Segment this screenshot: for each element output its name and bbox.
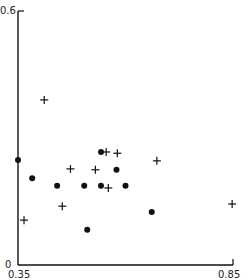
plus-marker (40, 96, 48, 104)
plus-marker (113, 149, 121, 157)
scatter-chart: 0.6 0 0.35 0.85 (0, 0, 250, 280)
plus-marker (104, 184, 112, 192)
x-tick-label-left: 0.35 (8, 269, 30, 280)
dot-marker (81, 183, 87, 189)
plus-marker (228, 200, 236, 208)
x-tick-label-right: 0.85 (218, 269, 240, 280)
plus-marker (58, 202, 66, 210)
plus-marker (153, 157, 161, 165)
plus-marker (20, 216, 28, 224)
plus-marker (91, 166, 99, 174)
dot-marker (113, 167, 119, 173)
data-points (15, 96, 236, 233)
y-tick-label-top: 0.6 (0, 5, 16, 16)
dot-marker (149, 209, 155, 215)
axes (18, 11, 233, 265)
plus-marker (102, 148, 110, 156)
dot-marker (29, 175, 35, 181)
plus-marker (66, 165, 74, 173)
dot-marker (15, 157, 21, 163)
dot-marker (98, 183, 104, 189)
dot-marker (54, 183, 60, 189)
dot-marker (123, 183, 129, 189)
dot-marker (84, 227, 90, 233)
